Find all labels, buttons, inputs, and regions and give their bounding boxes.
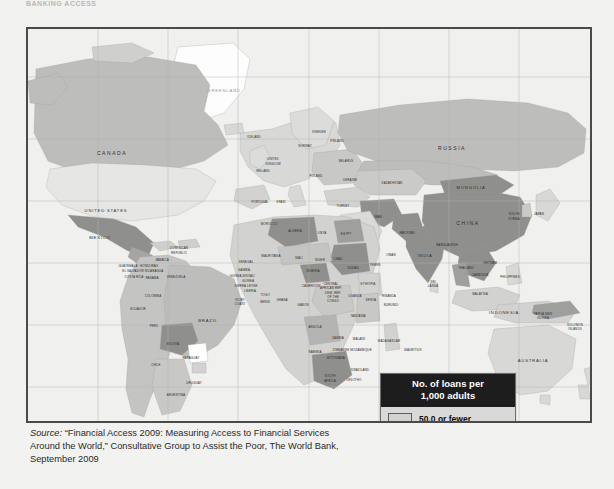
country-label: BOTSWANA <box>327 356 345 360</box>
country-label: MEXICO <box>89 235 110 240</box>
country-label: RUSSIA <box>438 145 466 151</box>
country-label: GUINEA <box>537 316 549 320</box>
cut-off-header-text: BANKING ACCESS <box>26 0 146 9</box>
country-label: SOUTH <box>325 374 336 378</box>
country-label: NIGER <box>315 258 326 262</box>
country-label: ZIMBABWE <box>333 348 350 352</box>
country-label: BOLIVIA <box>167 342 179 346</box>
country-label: KINGDOM <box>265 162 280 166</box>
country-label: JAPAN <box>534 212 544 216</box>
country-label: LIBERIA <box>244 289 256 293</box>
country-label: MAURITIUS <box>404 348 421 352</box>
world-map-frame: GREENLANDCANADAUNITED STATESMEXICOICELAN… <box>26 27 592 423</box>
country-label: PHILIPPINES <box>500 275 520 279</box>
country-label: GREENLAND <box>207 88 240 93</box>
country-label: MADAGASCAR <box>378 339 401 343</box>
country-label: NIGERIA <box>306 269 319 273</box>
country-label: NICARAGUA <box>145 269 164 273</box>
country-label: AUSTRALIA <box>518 358 548 363</box>
country-label: OMAN <box>386 253 395 257</box>
country-label: CAMBODIA <box>472 273 489 277</box>
country-label: ARGENTINA <box>167 393 185 397</box>
country-label: ISLANDS <box>568 327 582 331</box>
country-label: UKRAINE <box>343 178 357 182</box>
country-label: PAKISTAN <box>399 231 414 235</box>
country-label: COSTA RICA <box>125 275 144 279</box>
country-label: PERU <box>150 324 159 328</box>
country-label: COLOMBIA <box>145 294 162 298</box>
country-label: POLAND <box>310 174 324 178</box>
country-label: SWAZILAND <box>351 368 370 372</box>
map-page: BANKING ACCESS <box>0 0 614 489</box>
country-label: YEMEN <box>369 263 380 267</box>
country-label: CONGO <box>327 299 339 303</box>
country-label: ICELAND <box>247 135 261 139</box>
country-label: SENEGAL <box>239 260 254 264</box>
country-label: BELARUS <box>339 159 354 163</box>
country-label: ANGOLA <box>308 325 321 329</box>
country-label: BENIN <box>260 300 270 304</box>
country-label: NAMIBIA <box>308 350 321 354</box>
country-label: GUINEA-BISSAU <box>230 274 255 278</box>
country-label: PANAMA <box>145 276 158 280</box>
country-label: UNITED <box>267 157 279 161</box>
world-map-canvas: GREENLANDCANADAUNITED STATESMEXICOICELAN… <box>28 29 590 421</box>
country-label: CHINA <box>456 220 479 226</box>
country-label: INDIA <box>417 253 432 258</box>
country-label: RWANDA <box>382 294 396 298</box>
country-label: KENYA <box>366 298 376 302</box>
country-label: GHANA <box>276 298 287 302</box>
country-label: PORTUGAL <box>251 200 268 204</box>
country-label: MOZAMBIQUE <box>350 348 372 352</box>
country-label: CANADA <box>97 150 127 156</box>
country-label: LIBYA <box>318 231 327 235</box>
country-label: IRELAND <box>256 169 270 173</box>
country-label: TANZANIA <box>350 314 365 318</box>
country-label: LANKA <box>428 284 438 288</box>
country-label: ZAMBIA <box>332 336 344 340</box>
country-label: SIERRA LEONE <box>234 284 257 288</box>
country-label: ECUADOR <box>130 307 146 311</box>
country-label: BRAZIL <box>198 318 217 323</box>
country-label: MALI <box>295 256 302 260</box>
country-label: ALGERIA <box>288 229 302 233</box>
country-label: UGANDA <box>348 294 361 298</box>
country-label: KOREA <box>508 217 519 221</box>
country-label: URUGUAY <box>186 381 201 385</box>
country-label: SWEDEN <box>312 130 326 134</box>
country-label: BANGLADESH <box>436 243 458 247</box>
country-label: GABON <box>297 303 308 307</box>
country-label: DOMINICAN <box>170 246 188 250</box>
legend-entries: 50.0 or fewer50.1-300.0300.1-800.0800.1+… <box>381 407 515 423</box>
country-label: TURKEY <box>337 204 350 208</box>
country-label: FINLAND <box>330 139 344 143</box>
country-label: MOROCCO <box>261 222 278 226</box>
country-label: MALAYSIA <box>472 292 488 296</box>
country-label: GUINEA <box>242 279 254 283</box>
legend-title-line-1: No. of loans per <box>383 378 513 390</box>
country-label: MONGOLIA <box>457 185 486 190</box>
country-label: CHILE <box>151 363 160 367</box>
legend-title: No. of loans per 1,000 adults <box>381 374 515 407</box>
legend-row: 50.0 or fewer <box>388 411 515 423</box>
country-label: VIETNAM <box>483 261 497 265</box>
country-label: GUATEMALA <box>118 264 137 268</box>
country-label: CHAD <box>334 257 344 261</box>
country-label: INDONESIA <box>489 310 519 315</box>
country-label: AFRICA <box>324 379 336 383</box>
legend-title-line-2: 1,000 adults <box>383 390 513 402</box>
country-label: KAZAKHSTAN <box>382 181 403 185</box>
country-label: REPUBLIC <box>171 251 188 255</box>
country-label: SPAIN <box>276 200 285 204</box>
country-label: MALAWI <box>353 337 365 341</box>
country-label: NORWAY <box>298 144 312 148</box>
country-label: SUDAN <box>347 266 358 270</box>
country-label: JAMAICA <box>155 258 169 262</box>
legend-label: 50.0 or fewer <box>419 414 471 424</box>
country-label: COAST <box>235 302 246 306</box>
country-label: MAURITANIA <box>261 254 280 258</box>
source-line-1: “Financial Access 2009: Measuring Access… <box>65 428 291 438</box>
legend-swatch <box>388 413 412 423</box>
country-label: LESOTHO <box>346 378 362 382</box>
map-legend: No. of loans per 1,000 adults 50.0 or fe… <box>380 373 516 423</box>
